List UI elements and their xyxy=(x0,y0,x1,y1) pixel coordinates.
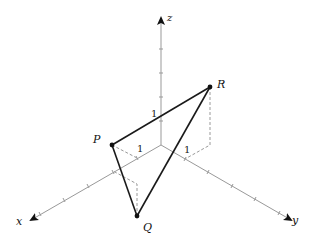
point-r xyxy=(208,85,213,90)
label-p: P xyxy=(92,133,101,146)
unit-label-y: 1 xyxy=(184,144,190,155)
point-p xyxy=(110,143,115,148)
tick-marks xyxy=(39,49,280,216)
point-q xyxy=(135,214,140,219)
axis-label-z: z xyxy=(166,12,173,23)
label-r: R xyxy=(216,78,225,91)
y-axis xyxy=(161,145,291,220)
edge-pq xyxy=(112,145,137,216)
axis-label-y: y xyxy=(291,214,299,227)
unit-label-z: 1 xyxy=(151,108,157,119)
diagram-canvas: P Q R z x y 1 1 1 xyxy=(0,0,312,241)
q-projection xyxy=(113,171,137,216)
label-q: Q xyxy=(143,221,152,234)
axes xyxy=(31,18,291,220)
unit-label-x: 1 xyxy=(137,143,143,154)
axis-label-x: x xyxy=(16,215,23,228)
